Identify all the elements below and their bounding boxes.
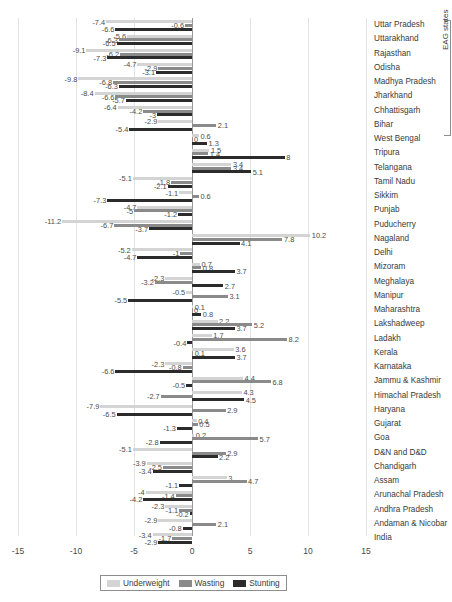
bar-row: 4.46.8-0.5 — [18, 376, 366, 390]
bar-underweight — [86, 49, 192, 52]
bar-underweight — [137, 206, 192, 209]
bar-value-label: -6.4 — [104, 104, 117, 111]
bar-row: 3.43.45.1 — [18, 163, 366, 177]
category-label: Sikkim — [374, 189, 452, 203]
bar-row: 0.100.8 — [18, 305, 366, 319]
bar-row: 0.25.7-2.8 — [18, 433, 366, 447]
bar-stunting — [179, 484, 192, 487]
bar-value-label: 2.7 — [225, 283, 235, 290]
category-label: Nagaland — [374, 232, 452, 246]
bar-rows: -7.4-0.6-6.6-5.6-6.3-6.5-9.1-6.2-7.3-4.7… — [18, 20, 366, 547]
bar-underweight — [192, 149, 209, 152]
bar-stunting — [190, 512, 192, 515]
bar-underweight — [133, 448, 192, 451]
bar-value-label: -3.4 — [139, 468, 152, 475]
bar-underweight — [192, 419, 197, 422]
bar-stunting — [153, 470, 192, 473]
bar-row: 2.25.23.7 — [18, 319, 366, 333]
bar-value-label: -4.7 — [124, 61, 137, 68]
bar-underweight — [192, 434, 194, 437]
bar-wasting — [192, 523, 216, 526]
bar-underweight — [192, 334, 212, 337]
bar-value-label: -4.2 — [130, 108, 143, 115]
bar-row: 10.27.84.1 — [18, 234, 366, 248]
bar-wasting — [114, 224, 192, 227]
bar-wasting — [113, 81, 192, 84]
category-label: India — [374, 531, 452, 545]
category-label: Arunachal Pradesh — [374, 488, 452, 502]
bar-stunting — [143, 498, 192, 501]
bar-value-label: 5.1 — [253, 169, 263, 176]
category-label: Himachal Pradesh — [374, 389, 452, 403]
bar-value-label: -1.3 — [163, 425, 176, 432]
bar-row: -6.4-4.2-3 — [18, 106, 366, 120]
bar-wasting — [192, 352, 193, 355]
category-label: Ladakh — [374, 332, 452, 346]
category-label: Andaman & Nicobar — [374, 517, 452, 531]
bar-value-label: -6.7 — [101, 222, 114, 229]
category-label: Assam — [374, 474, 452, 488]
category-label: Madhya Pradesh — [374, 75, 452, 89]
bar-wasting — [192, 480, 247, 483]
bar-value-label: -1.2 — [164, 211, 177, 218]
bar-row: 0.70.83.7 — [18, 262, 366, 276]
bar-value-label: -6.6 — [102, 368, 115, 375]
category-label: Tripura — [374, 146, 452, 160]
bar-wasting — [192, 238, 282, 241]
bar-value-label: -1.1 — [165, 482, 178, 489]
bar-row: -2.92.1-5.4 — [18, 120, 366, 134]
legend-swatch-underweight — [107, 580, 120, 587]
bar-underweight — [100, 405, 192, 408]
legend-label-stunting: Stunting — [249, 578, 279, 588]
bar-stunting — [137, 256, 192, 259]
x-tick-label: -10 — [70, 546, 82, 556]
bar-wasting — [192, 437, 258, 440]
legend-item-wasting: Wasting — [179, 578, 225, 588]
bar-value-label: -7.9 — [87, 403, 100, 410]
category-label: West Bengal — [374, 132, 452, 146]
bar-stunting — [119, 85, 192, 88]
category-label: Bihar — [374, 118, 452, 132]
bar-value-label: 2.2 — [219, 454, 229, 461]
bar-value-label: -9.1 — [73, 47, 86, 54]
bar-value-label: -5.4 — [116, 126, 129, 133]
x-tick-label: 5 — [248, 546, 253, 556]
bar-row: 0.40.5-1.3 — [18, 419, 366, 433]
bar-value-label: -0.4 — [174, 340, 187, 347]
bar-underweight — [179, 191, 192, 194]
bar-value-label: -6.3 — [105, 83, 118, 90]
bar-value-label: -6.5 — [103, 40, 116, 47]
bar-stunting — [115, 28, 192, 31]
bar-row: 1.78.2-0.4 — [18, 334, 366, 348]
bar-stunting — [178, 213, 192, 216]
bar-stunting — [186, 384, 192, 387]
bar-value-label: -5.5 — [114, 297, 127, 304]
category-label: Meghalaya — [374, 275, 452, 289]
bar-stunting — [115, 370, 192, 373]
bar-underweight — [62, 220, 192, 223]
bar-value-label: -7.3 — [94, 197, 107, 204]
bar-row: 3.60.13.7 — [18, 348, 366, 362]
bar-value-label: 3.7 — [236, 268, 246, 275]
bar-row: -2.92.1-0.8 — [18, 519, 366, 533]
bar-wasting — [192, 380, 271, 383]
bar-value-label: 0.8 — [203, 311, 213, 318]
bar-row: -7.4-0.6-6.6 — [18, 20, 366, 34]
bar-row: -8.4-6.6-5.7 — [18, 91, 366, 105]
bar-value-label: -2.9 — [145, 539, 158, 546]
bar-row: -4.7-5-1.2 — [18, 205, 366, 219]
bar-value-label: 5.7 — [260, 436, 270, 443]
x-tick-label: -5 — [130, 546, 138, 556]
bar-value-label: 0.6 — [200, 193, 210, 200]
bar-underweight — [78, 77, 192, 80]
x-tick-label: -15 — [12, 546, 24, 556]
bar-value-label: 4.1 — [241, 240, 251, 247]
bar-row: -5.2-1-4.7 — [18, 248, 366, 262]
category-label: Jharkhand — [374, 89, 452, 103]
bar-wasting — [180, 252, 192, 255]
bar-underweight — [165, 277, 192, 280]
category-label: Kerala — [374, 346, 452, 360]
bar-value-label: 10.2 — [312, 232, 326, 239]
bar-value-label: -5 — [126, 208, 133, 215]
bar-stunting — [192, 327, 235, 330]
